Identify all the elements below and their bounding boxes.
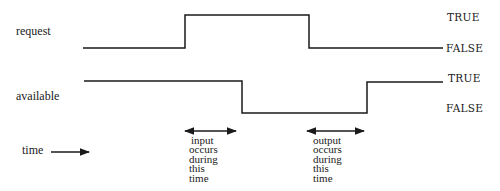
note-line: time — [313, 174, 342, 183]
input-window-note: input occurs during this time — [189, 136, 218, 183]
note-line: time — [189, 174, 218, 183]
request-false-label: FALSE — [446, 43, 483, 54]
time-axis-label: time — [22, 144, 43, 156]
available-waveform — [84, 81, 443, 113]
signal-label-available: available — [16, 90, 59, 102]
available-false-label: FALSE — [446, 103, 483, 114]
available-true-label: TRUE — [448, 73, 481, 84]
output-window-note: output occurs during this time — [313, 136, 342, 183]
waveform-canvas — [0, 0, 500, 191]
timing-diagram: request available TRUE FALSE TRUE FALSE … — [0, 0, 500, 191]
signal-label-request: request — [16, 25, 51, 37]
request-waveform — [83, 15, 443, 48]
request-true-label: TRUE — [447, 12, 480, 23]
